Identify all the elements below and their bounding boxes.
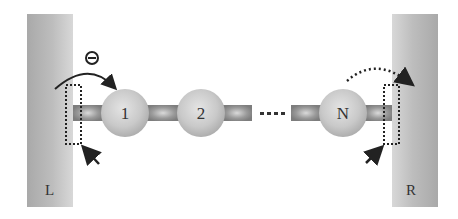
site-1-label: 1	[121, 104, 130, 123]
bond-2-ellipsis	[222, 105, 252, 121]
negative-charge-icon	[86, 52, 98, 64]
site-N-label: N	[337, 104, 349, 123]
ellipsis-dots	[260, 112, 285, 115]
left-electrode: L	[27, 14, 73, 207]
site-N: N	[319, 89, 367, 137]
site-2-label: 2	[197, 104, 206, 123]
bond-ellipsis-N	[291, 105, 321, 121]
bond-right-contact	[364, 105, 392, 121]
site-2: 2	[177, 89, 225, 137]
bond-1-2	[146, 105, 180, 121]
molecular-junction-diagram: L R 1 2 N	[0, 0, 458, 219]
site-1: 1	[101, 89, 149, 137]
bond-left-contact	[73, 105, 103, 121]
left-pointer-arrow	[86, 150, 99, 164]
left-electrode-label: L	[45, 182, 54, 198]
right-electrode-label: R	[406, 182, 416, 198]
right-pointer-arrow	[366, 150, 379, 163]
